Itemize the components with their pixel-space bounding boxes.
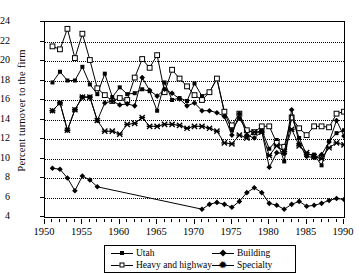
legend-item-specialty[interactable]: ✹Specialty bbox=[212, 260, 291, 270]
data-point-marker bbox=[155, 53, 160, 58]
data-point-marker bbox=[326, 145, 332, 150]
x-tick-major bbox=[231, 219, 232, 224]
data-point-marker bbox=[266, 153, 272, 158]
x-tick-minor bbox=[313, 219, 314, 222]
data-point-marker bbox=[206, 126, 212, 131]
y-axis-title: Percent turnover to the firm bbox=[16, 31, 27, 191]
legend-item-building[interactable]: Building bbox=[212, 248, 291, 258]
x-tick-major bbox=[268, 219, 269, 224]
data-point-marker bbox=[117, 132, 123, 137]
data-point-marker bbox=[50, 44, 55, 49]
data-point-marker bbox=[132, 103, 138, 109]
x-tick-minor bbox=[134, 219, 135, 222]
x-tick-label: 1950 bbox=[24, 226, 64, 237]
data-point-marker bbox=[222, 109, 227, 114]
y-tick-label: 6 bbox=[0, 192, 10, 202]
data-point-marker bbox=[207, 90, 212, 95]
legend-label: Utah bbox=[136, 248, 154, 258]
series-layer bbox=[45, 22, 344, 217]
legend-marker-filled-diamond-icon bbox=[212, 249, 234, 258]
data-point-marker bbox=[132, 121, 138, 126]
legend: UtahBuildingHeavy and highway✹Specialty bbox=[104, 245, 296, 273]
y-tick-label: 8 bbox=[0, 172, 10, 182]
data-point-marker bbox=[155, 109, 159, 113]
x-tick-minor bbox=[171, 219, 172, 222]
x-tick-minor bbox=[336, 219, 337, 222]
data-point-marker bbox=[65, 26, 70, 31]
data-point-marker bbox=[274, 203, 280, 209]
x-tick-minor bbox=[328, 219, 329, 222]
y-tick-label: 14 bbox=[0, 114, 10, 124]
data-point-marker bbox=[118, 85, 122, 89]
legend-marker-filled-square-icon bbox=[111, 249, 133, 258]
x-tick-minor bbox=[298, 219, 299, 222]
data-point-marker bbox=[341, 197, 344, 203]
data-point-marker bbox=[117, 96, 122, 101]
y-tick-label: 16 bbox=[0, 94, 10, 104]
x-tick-major bbox=[194, 219, 195, 224]
data-point-marker bbox=[327, 125, 332, 130]
legend-marker-open-square-icon bbox=[111, 261, 133, 270]
legend-item-heavy-and-highway[interactable]: Heavy and highway bbox=[111, 260, 212, 270]
data-point-marker bbox=[311, 203, 317, 209]
data-point-marker bbox=[221, 140, 227, 145]
x-tick-label: 1990 bbox=[323, 226, 359, 237]
data-point-marker bbox=[229, 123, 234, 128]
data-point-marker bbox=[266, 164, 272, 170]
data-point-marker bbox=[117, 102, 123, 108]
data-point-marker bbox=[124, 122, 130, 127]
x-tick-minor bbox=[126, 219, 127, 222]
x-tick-major bbox=[306, 219, 307, 224]
x-tick-major bbox=[156, 219, 157, 224]
data-point-marker bbox=[342, 109, 344, 114]
x-tick-minor bbox=[216, 219, 217, 222]
data-point-marker bbox=[192, 93, 197, 98]
data-point-marker bbox=[222, 202, 228, 208]
data-point-marker bbox=[252, 185, 258, 191]
x-tick-minor bbox=[223, 219, 224, 222]
x-tick-label: 1970 bbox=[174, 226, 214, 237]
y-tick-label: 20 bbox=[0, 55, 10, 65]
data-point-marker bbox=[170, 98, 174, 102]
series-utah bbox=[50, 65, 344, 167]
data-point-marker bbox=[334, 196, 340, 202]
data-point-marker bbox=[154, 124, 160, 129]
data-point-marker bbox=[147, 65, 152, 70]
x-tick-minor bbox=[246, 219, 247, 222]
data-point-marker bbox=[289, 107, 295, 113]
y-tick-label: 18 bbox=[0, 75, 10, 85]
data-point-marker bbox=[215, 76, 220, 81]
data-point-marker bbox=[259, 124, 264, 129]
data-point-marker bbox=[236, 133, 242, 138]
data-point-marker bbox=[297, 126, 302, 131]
data-point-marker bbox=[73, 56, 78, 61]
x-tick-major bbox=[44, 219, 45, 224]
data-point-marker bbox=[289, 127, 295, 132]
data-point-marker bbox=[335, 131, 339, 135]
data-point-marker bbox=[207, 202, 213, 208]
data-point-marker bbox=[341, 142, 344, 147]
data-point-marker bbox=[140, 57, 145, 62]
x-tick-minor bbox=[291, 219, 292, 222]
x-tick-minor bbox=[89, 219, 90, 222]
x-tick-minor bbox=[51, 219, 52, 222]
data-point-marker bbox=[50, 165, 56, 171]
x-tick-minor bbox=[96, 219, 97, 222]
x-tick-minor bbox=[141, 219, 142, 222]
data-point-marker bbox=[147, 124, 153, 129]
data-point-marker bbox=[139, 75, 145, 81]
x-tick-major bbox=[343, 219, 344, 224]
chart-figure: Percent turnover to the firm 46810121416… bbox=[0, 0, 359, 275]
legend-item-utah[interactable]: Utah bbox=[111, 248, 212, 258]
y-tick-label: 12 bbox=[0, 133, 10, 143]
x-tick-minor bbox=[208, 219, 209, 222]
data-point-marker bbox=[58, 70, 62, 74]
x-tick-label: 1985 bbox=[286, 226, 326, 237]
data-point-marker bbox=[50, 80, 54, 84]
x-tick-minor bbox=[321, 219, 322, 222]
data-point-marker bbox=[72, 188, 78, 194]
data-point-marker bbox=[184, 126, 190, 131]
data-point-marker bbox=[88, 82, 92, 86]
y-tick-label: 24 bbox=[0, 16, 10, 26]
data-point-marker bbox=[207, 108, 213, 114]
